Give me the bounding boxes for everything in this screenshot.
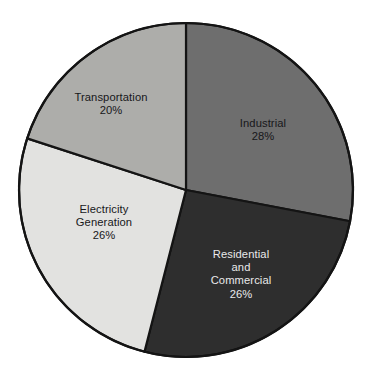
pie-slice-group [19,23,353,357]
pie-slice-industrial[interactable] [186,23,353,221]
pie-chart: Transportation 20% Industrial 28% Electr… [0,0,371,378]
pie-chart-canvas [0,0,371,378]
